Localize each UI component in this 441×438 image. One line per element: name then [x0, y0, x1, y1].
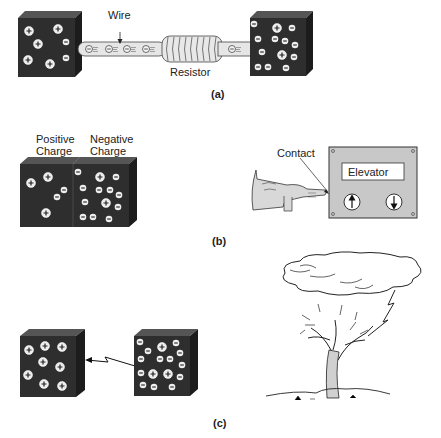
hand-illustration [252, 158, 329, 211]
positive-charge-label-line2: Charge [36, 145, 72, 157]
elevator-panel [329, 147, 417, 218]
resistor [162, 36, 252, 62]
caption-a: (a) [211, 88, 224, 100]
elevator-label: Elevator [348, 166, 388, 178]
split-charge-block [20, 157, 137, 227]
positive-block-c [20, 329, 85, 397]
positive-block-a [18, 11, 82, 77]
negative-block-a [250, 11, 313, 76]
negative-charge-label-line2: Charge [90, 145, 126, 157]
wire [78, 32, 166, 56]
negative-block-c [134, 329, 198, 396]
resistor-label: Resistor [170, 66, 210, 78]
illustration [0, 0, 441, 438]
positive-charge-label-line1: Positive [36, 133, 75, 145]
figure: Wire Resistor (a) Positive Charge Negati… [0, 0, 441, 438]
contact-label: Contact [277, 147, 315, 159]
wire-label: Wire [108, 9, 131, 21]
negative-charge-label-line1: Negative [90, 133, 133, 145]
spark-arrow [85, 357, 135, 366]
cloud-lightning-tree [266, 252, 421, 400]
caption-b: (b) [212, 235, 226, 247]
caption-c: (c) [213, 417, 226, 429]
